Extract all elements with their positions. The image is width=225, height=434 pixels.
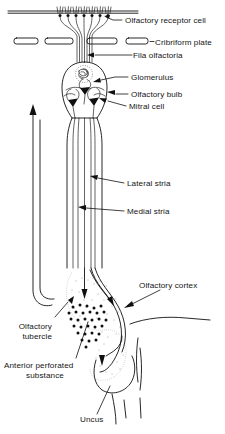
label-fila-olfactoria: Fila olfactoria xyxy=(133,51,183,60)
mitral-cells-group xyxy=(64,79,105,118)
uncus-outline xyxy=(94,356,135,393)
uncus-fissure-2 xyxy=(140,398,141,418)
label-medial-stria: Medial stria xyxy=(127,207,170,216)
direction-arrow-shaft xyxy=(33,113,52,306)
temporal-lobe-upper-edge xyxy=(130,317,210,324)
label-cribriform-plate: Cribriform plate xyxy=(155,38,212,47)
labels-group: Olfactory receptor cell Cribriform plate… xyxy=(4,16,212,424)
receptor-cell-somata xyxy=(59,14,110,17)
direction-arrow-shaft-inner xyxy=(40,120,54,299)
cortex-stipple-field xyxy=(70,278,124,375)
leader-arrowhead xyxy=(68,296,74,304)
olfactory-bulb-group xyxy=(62,62,107,118)
label-lateral-stria: Lateral stria xyxy=(127,179,171,188)
cribriform-plate-segment xyxy=(45,38,73,44)
anterior-perforated-substance-dots xyxy=(68,304,108,349)
olfactory-receptor-cells-group xyxy=(57,7,111,62)
uncus-fiber-arrowhead xyxy=(99,355,105,366)
leader-medial-stria xyxy=(86,208,124,211)
glomerulus-tangle xyxy=(79,69,88,79)
temporal-lobe-gyrus-edge xyxy=(112,394,116,424)
glomerulus-outline xyxy=(76,66,93,83)
label-olfactory-bulb: Olfactory bulb xyxy=(131,90,183,99)
leader-arrowhead xyxy=(78,205,86,211)
terminal-fibers-group xyxy=(82,268,126,372)
leader-arrowhead xyxy=(87,53,94,58)
cribriform-plate-group xyxy=(14,38,148,44)
tract-fibers xyxy=(73,118,95,268)
leader-mitral-cell xyxy=(108,101,126,106)
leader-arrowhead xyxy=(93,78,101,83)
leader-arrowhead xyxy=(104,15,110,19)
cilia-group xyxy=(57,7,111,13)
label-olfactory-receptor-cell: Olfactory receptor cell xyxy=(125,16,206,25)
label-anterior-perforated-line2: substance xyxy=(26,371,64,380)
cribriform-plate-segment xyxy=(87,38,117,44)
olfactory-pathway-diagram: Olfactory receptor cell Cribriform plate… xyxy=(0,0,225,434)
olfactory-epithelium-group xyxy=(8,11,138,13)
direction-arrow-head xyxy=(30,104,37,115)
tract-outer-right-wall xyxy=(97,118,102,268)
leader-arrowhead xyxy=(99,98,107,103)
diagram-canvas: Olfactory receptor cell Cribriform plate… xyxy=(0,0,225,434)
leader-uncus xyxy=(97,386,110,414)
leader-arrowhead xyxy=(124,301,134,308)
temporal-lobe-sulcus-2 xyxy=(140,348,142,390)
leader-olfactory-tubercle xyxy=(55,302,68,317)
temporal-lobe-sulcus-1 xyxy=(137,338,139,382)
leader-arrowhead xyxy=(107,90,115,95)
leader-olfactory-cortex xyxy=(132,290,160,304)
mitral-cell-soma xyxy=(68,99,78,108)
glomerulus-group xyxy=(76,66,93,83)
label-olfactory-tubercle-line1: Olfactory xyxy=(19,322,53,331)
cribriform-plate-segment xyxy=(14,38,38,44)
label-olfactory-tubercle-line2: tubercle xyxy=(22,332,52,341)
label-mitral-cell: Mitral cell xyxy=(129,102,164,111)
uncus-group xyxy=(94,317,210,424)
tract-outer-left-wall xyxy=(67,118,72,268)
leader-glomerulus xyxy=(101,77,128,80)
label-uncus: Uncus xyxy=(80,415,103,424)
uncus-fissure-1 xyxy=(124,400,126,418)
mitral-cell-soma xyxy=(89,98,99,107)
medial-fiber-arrowhead xyxy=(82,289,88,299)
label-olfactory-cortex: Olfactory cortex xyxy=(139,281,197,290)
afferent-direction-arrow xyxy=(30,104,55,306)
label-anterior-perforated-line1: Anterior perforated xyxy=(4,361,73,370)
olfactory-tract-group xyxy=(67,118,102,268)
cribriform-plate-segment xyxy=(126,38,148,44)
label-glomerulus: Glomerulus xyxy=(131,73,173,82)
